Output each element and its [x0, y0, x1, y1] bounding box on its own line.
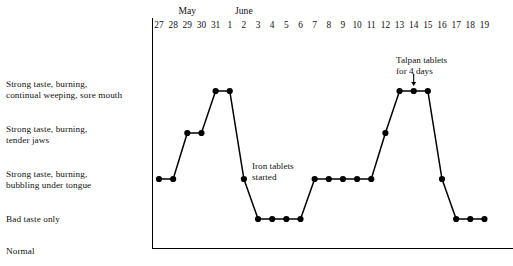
data-point	[156, 176, 162, 182]
data-point	[411, 88, 417, 94]
data-point	[283, 216, 289, 222]
annotation-arrow-head	[411, 82, 416, 85]
data-point	[326, 176, 332, 182]
data-point	[269, 216, 275, 222]
annotation-iron-tablets: Iron tabletsstarted	[252, 161, 294, 183]
data-point	[297, 216, 303, 222]
data-point	[255, 216, 261, 222]
data-point	[368, 176, 374, 182]
data-point	[481, 216, 487, 222]
data-point	[184, 130, 190, 136]
data-point	[312, 176, 318, 182]
data-point	[354, 176, 360, 182]
data-point	[227, 88, 233, 94]
data-point	[439, 176, 445, 182]
data-point	[396, 88, 402, 94]
data-point	[453, 216, 459, 222]
data-point	[198, 130, 204, 136]
data-point	[340, 176, 346, 182]
data-point	[382, 130, 388, 136]
data-point	[170, 176, 176, 182]
annotation-talpan-tablets: Talpan tabletsfor 4 days	[396, 55, 447, 77]
data-point	[467, 216, 473, 222]
data-point	[213, 88, 219, 94]
symptom-severity-chart: MayJune 27282930311234567891011121314151…	[0, 0, 513, 266]
series-line	[159, 91, 484, 219]
data-point	[241, 176, 247, 182]
plot-area	[0, 0, 513, 266]
data-point	[425, 88, 431, 94]
